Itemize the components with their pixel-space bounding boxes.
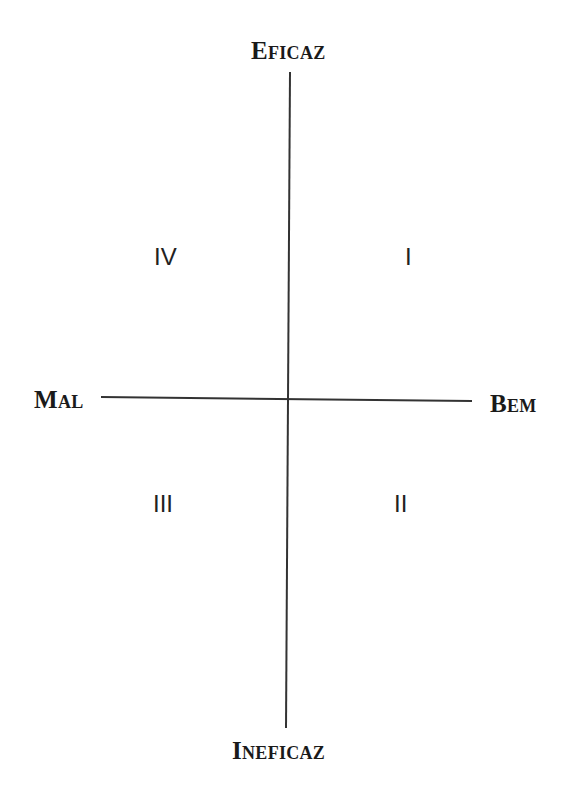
axis-label-ineficaz-initial: I <box>232 737 242 764</box>
axis-label-ineficaz: INEFICAZ <box>232 738 325 763</box>
axis-label-ineficaz-rest: NEFICAZ <box>242 743 325 763</box>
horizontal-axis-line <box>101 397 472 401</box>
quadrant-label-ii: II <box>394 492 407 516</box>
quadrant-label-i: I <box>405 245 412 269</box>
axis-label-eficaz: EFICAZ <box>251 38 326 63</box>
axis-label-bem-rest: EM <box>507 396 537 416</box>
axis-label-mal-rest: AL <box>58 392 84 412</box>
axis-label-eficaz-rest: FICAZ <box>268 43 326 63</box>
axis-label-mal-initial: M <box>34 386 58 413</box>
quadrant-label-iv: IV <box>154 245 177 269</box>
quadrant-label-iii: III <box>153 492 173 516</box>
axis-label-mal: MAL <box>34 387 84 412</box>
axis-label-eficaz-initial: E <box>251 37 268 64</box>
quadrant-diagram: EFICAZ INEFICAZ MAL BEM IV I III II <box>0 0 570 795</box>
axis-label-bem-initial: B <box>490 390 507 417</box>
axis-label-bem: BEM <box>490 391 537 416</box>
axes <box>0 0 570 795</box>
